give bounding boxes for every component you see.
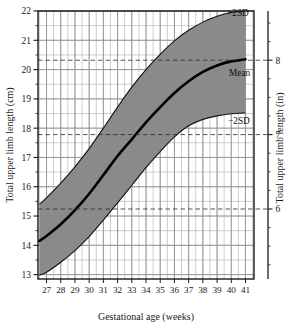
x-tick-label: 35 [156,285,166,295]
x-tick-label: 34 [141,285,151,295]
y-tick-label-cm: 16 [22,182,32,192]
x-tick-label: 30 [85,285,95,295]
y-axis-right-title: Total upper limb length (in) [274,93,286,204]
x-tick-label: 39 [212,285,222,295]
y-tick-label-cm: 15 [22,211,32,221]
x-tick-label: 37 [184,285,194,295]
growth-chart-figure: 22212019181716151413 876 272829303132333… [0,0,291,327]
x-tick-label: 38 [198,285,208,295]
y-tick-label-cm: 18 [22,124,32,134]
x-tick-label: 40 [227,285,237,295]
y-tick-label-cm: 20 [22,65,32,75]
x-tick-label: 31 [99,285,109,295]
x-tick-label: 29 [70,285,80,295]
x-tick-label: 32 [113,285,123,295]
x-tick-label: 27 [42,285,52,295]
y-tick-label-cm: 22 [22,6,32,16]
annotation-plus2sd: +2SD [227,8,249,18]
y-tick-label-in: 8 [276,56,281,66]
x-tick-label: 41 [241,285,251,295]
y-tick-label-cm: 14 [22,241,32,251]
x-tick-label: 33 [127,285,137,295]
chart-canvas: 22212019181716151413 876 272829303132333… [0,0,291,327]
y-axis-left-title: Total upper limb length (cm) [4,87,16,202]
x-tick-label: 36 [170,285,180,295]
y-tick-label-cm: 21 [22,36,32,46]
annotation-mean: Mean [229,68,251,78]
y-tick-label-cm: 13 [22,270,32,280]
y-tick-label-cm: 17 [22,153,32,163]
x-axis-title: Gestational age (weeks) [98,311,194,323]
x-tick-label: 28 [56,285,66,295]
y-tick-label-cm: 19 [22,94,32,104]
annotation-minus2sd: −2SD [228,116,250,126]
y-tick-label-in: 6 [276,204,281,214]
